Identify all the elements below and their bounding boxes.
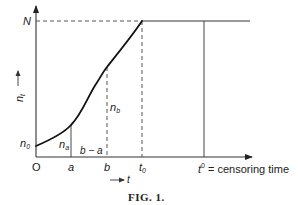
x-label-t0: t0 <box>139 162 146 174</box>
x-label-a: a <box>68 162 74 173</box>
y-axis-label: nt <box>14 94 26 102</box>
y-label-n0: n0 <box>20 138 30 150</box>
x-axis-label: t <box>127 175 130 185</box>
annotation-nb: nb <box>110 102 120 114</box>
annotation-na: na <box>59 139 69 151</box>
annotation-b-minus-a: b − a <box>80 146 103 156</box>
nt-curve <box>36 21 142 146</box>
na-sub: a <box>65 144 69 151</box>
y-axis-label-sub: t <box>19 94 26 96</box>
x-label-censoring-time: t0 = censoring time <box>198 162 289 175</box>
x-label-b: b <box>104 162 110 173</box>
x-label-origin: O <box>32 162 41 173</box>
t0-sub: 0 <box>142 167 146 174</box>
y-label-N: N <box>23 16 31 27</box>
n0-sub: 0 <box>26 143 30 150</box>
nb-sub: b <box>116 107 120 114</box>
censoring-text: = censoring time <box>205 163 289 175</box>
y-axis-label-main: n <box>13 96 25 102</box>
figure-caption: FIG. 1. <box>128 191 165 203</box>
